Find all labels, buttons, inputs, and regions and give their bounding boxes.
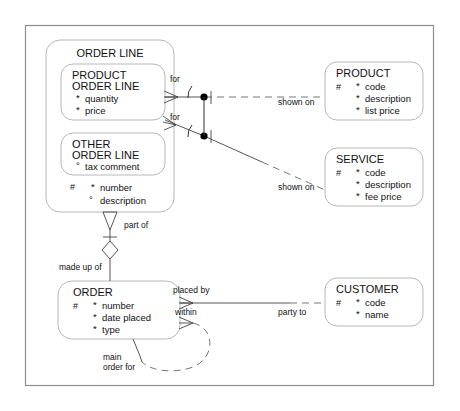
rel-label-main: main (103, 352, 122, 362)
relationship-order-line-order[interactable]: part of made up of (59, 212, 149, 281)
service-attr-0-name: code (365, 167, 386, 178)
entity-other-order-line[interactable]: OTHER ORDER LINE ° tax comment (61, 133, 165, 175)
service-attr-2-opt: * (356, 190, 360, 201)
pol-attr-1-opt: * (76, 104, 80, 115)
pol-attr-1-name: price (85, 105, 106, 116)
order-attr-1-name: date placed (102, 312, 151, 323)
entity-order[interactable]: ORDER # * number * date placed * type (58, 281, 180, 339)
service-attr-0-marker: # (336, 168, 341, 178)
rel-label-part-of: part of (124, 220, 149, 230)
customer-attr-0-marker: # (336, 298, 341, 308)
relationship-pol-product[interactable]: for shown on (164, 74, 325, 107)
rel-label-order-for: order for (103, 362, 135, 372)
service-attr-1-opt: * (356, 178, 360, 189)
rel-label-made-up-of: made up of (59, 262, 102, 272)
entity-customer-title: CUSTOMER (336, 283, 399, 295)
customer-attr-0-name: code (365, 297, 386, 308)
order-attr-2-opt: * (93, 323, 97, 334)
rel-label-for-1: for (170, 74, 180, 84)
order-line-attr-1-opt: ° (89, 194, 93, 205)
order-attr-1-opt: * (93, 311, 97, 322)
entity-other-order-line-title-2: ORDER LINE (72, 149, 139, 161)
rel-label-shown-on-1: shown on (278, 97, 315, 107)
ool-attr-0-opt: ° (76, 160, 80, 171)
entity-product-order-line-title-2: ORDER LINE (72, 80, 139, 92)
product-attr-2-opt: * (356, 104, 360, 115)
order-attr-0-name: number (102, 300, 134, 311)
order-attr-2-name: type (102, 324, 120, 335)
service-attr-0-opt: * (356, 166, 360, 177)
rel-label-shown-on-2: shown on (278, 182, 315, 192)
product-attr-2-name: list price (365, 105, 400, 116)
order-line-attr-1-name: description (100, 195, 146, 206)
pol-attr-0-opt: * (76, 92, 80, 103)
rel-label-placed-by: placed by (173, 285, 210, 295)
ool-attr-0-name: tax comment (85, 161, 140, 172)
non-transferable-diamond (102, 241, 118, 259)
order-line-attr-0-marker: # (70, 182, 75, 192)
product-attr-0-opt: * (356, 80, 360, 91)
customer-attr-0-opt: * (356, 296, 360, 307)
er-diagram-canvas: ORDER LINE # * number ° description PROD… (0, 0, 460, 411)
entity-service-title: SERVICE (336, 153, 384, 165)
service-attr-1-name: description (365, 179, 411, 190)
customer-attr-1-name: name (365, 309, 389, 320)
entity-product-title: PRODUCT (336, 67, 391, 79)
product-attr-1-name: description (365, 93, 411, 104)
order-attr-0-opt: * (93, 299, 97, 310)
exclusive-arc (188, 86, 204, 137)
entity-order-title: ORDER (73, 286, 113, 298)
product-attr-0-name: code (365, 81, 386, 92)
rel-label-for-2: for (170, 112, 180, 122)
entity-order-line-title: ORDER LINE (76, 47, 143, 59)
order-line-attr-0-opt: * (91, 181, 95, 192)
service-attr-2-name: fee price (365, 191, 401, 202)
entity-customer[interactable]: CUSTOMER # * code * name (325, 278, 423, 326)
entity-service[interactable]: SERVICE # * code * description * fee pri… (325, 148, 423, 206)
rel-label-party-to: party to (278, 307, 307, 317)
relationship-pol-service[interactable]: for shown on (163, 112, 325, 192)
rel-label-within: within (174, 307, 197, 317)
product-attr-1-opt: * (356, 92, 360, 103)
entity-product-order-line[interactable]: PRODUCT ORDER LINE * quantity * price (61, 64, 165, 120)
customer-attr-1-opt: * (356, 308, 360, 319)
order-line-attr-0-name: number (100, 182, 132, 193)
entity-product[interactable]: PRODUCT # * code * description * list pr… (325, 62, 423, 120)
product-attr-0-marker: # (336, 82, 341, 92)
order-attr-0-marker: # (73, 301, 78, 311)
pol-attr-0-name: quantity (85, 93, 119, 104)
